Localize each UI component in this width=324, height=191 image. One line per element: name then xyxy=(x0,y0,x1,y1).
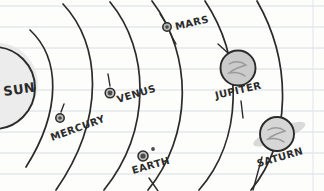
venus-leader xyxy=(108,74,110,86)
earth-leader xyxy=(149,178,158,191)
mars-leader-lower xyxy=(170,33,176,44)
body-labels-group: SUNMERCURYVENUSEARTHMARSJUPITERSATURN xyxy=(2,14,304,176)
earth-core-dot xyxy=(140,153,145,158)
earth-label: EARTH xyxy=(131,155,172,176)
mars-core-dot xyxy=(165,25,169,29)
solar-system-drawing: SUNMERCURYVENUSEARTHMARSJUPITERSATURN xyxy=(0,0,324,191)
mercury-core-dot xyxy=(58,116,62,120)
jupiter-leader-2 xyxy=(241,101,243,118)
venus-label: VENUS xyxy=(115,83,157,105)
mercury-leader xyxy=(61,104,64,112)
venus-orbit xyxy=(56,4,93,190)
notebook-page: SUNMERCURYVENUSEARTHMARSJUPITERSATURN xyxy=(0,0,324,191)
earth-moon xyxy=(151,147,155,151)
venus-core-dot xyxy=(108,91,113,96)
mars-label: MARS xyxy=(174,14,210,32)
